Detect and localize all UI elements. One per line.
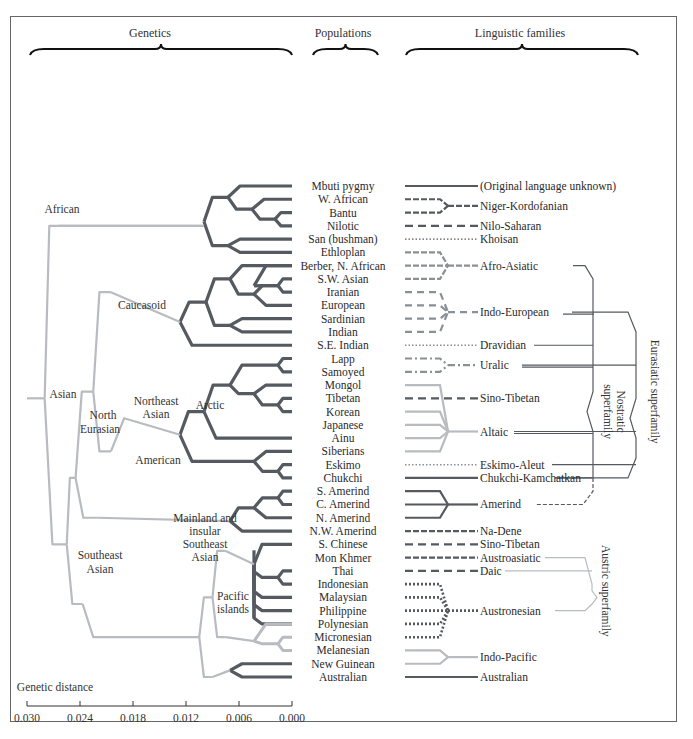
family-label-15: Austroasiatic xyxy=(480,552,541,564)
population-label: Samoyed xyxy=(322,366,365,379)
family-label-5: Indo-European xyxy=(480,306,549,319)
axis-tick-label: 0.030 xyxy=(14,712,40,724)
axis-tick-label: 0.018 xyxy=(120,712,146,724)
axis-tick-label: 0.000 xyxy=(279,712,305,724)
eurasiatic-label: Eurasiatic superfamily xyxy=(648,340,661,444)
aus-stem xyxy=(213,670,231,677)
tree-branch xyxy=(204,222,228,246)
tree-branch xyxy=(278,491,292,498)
tree-branch xyxy=(228,239,292,246)
population-label: Mongol xyxy=(325,379,361,392)
population-label: Micronesian xyxy=(314,631,372,643)
population-label: S. Chinese xyxy=(318,538,367,550)
tree-branch xyxy=(228,246,292,253)
language-link xyxy=(405,365,448,372)
tree-branch xyxy=(278,637,292,644)
nostratic-label: superfamily xyxy=(601,384,614,439)
family-label-19: Australian xyxy=(480,671,528,683)
family-label-17: Austronesian xyxy=(480,605,541,617)
population-label: Bantu xyxy=(329,207,357,219)
asian-split xyxy=(67,478,76,544)
clade-label-pacific: Pacific xyxy=(217,590,249,602)
header-linguistic: Linguistic families xyxy=(475,26,566,40)
population-label: S.E. Indian xyxy=(317,339,369,351)
tree-branch xyxy=(228,197,252,209)
tree-branch xyxy=(278,398,292,405)
language-link xyxy=(405,292,448,312)
tree-branch xyxy=(230,385,254,394)
text-layer: 0.0300.0240.0180.0120.0060.000GeneticsPo… xyxy=(14,26,661,724)
brace-genetics xyxy=(30,44,292,55)
backbone xyxy=(45,398,67,544)
tree-branch xyxy=(204,412,292,439)
tree-branch xyxy=(278,279,292,286)
family-label-1: Niger-Kordofanian xyxy=(480,200,568,213)
population-label: Chukchi xyxy=(324,472,363,484)
tree-branch xyxy=(275,219,292,226)
language-link xyxy=(405,359,448,366)
family-label-16: Daic xyxy=(480,565,502,577)
clade-label-mainland: Mainland and xyxy=(173,512,237,524)
population-label: Mon Khmer xyxy=(315,552,372,564)
clade-label-caucasoid: Caucasoid xyxy=(118,299,166,311)
tree-branch xyxy=(278,286,292,293)
language-link xyxy=(405,425,448,432)
population-label: N. Amerind xyxy=(316,512,371,524)
tree-branch xyxy=(278,471,292,478)
clade-label-northeast-asian: Asian xyxy=(143,408,170,420)
family-label-6: Dravidian xyxy=(480,339,526,351)
language-link xyxy=(405,305,448,312)
se-asian-stem xyxy=(83,604,200,637)
header-populations: Populations xyxy=(315,26,372,40)
family-label-10: Eskimo-Aleut xyxy=(480,459,545,471)
language-link xyxy=(405,266,448,279)
language-link xyxy=(405,491,448,504)
tree-branch xyxy=(278,405,292,412)
language-link xyxy=(405,312,448,319)
pacific-stem xyxy=(226,637,254,641)
tree-branch xyxy=(278,465,292,472)
axis-tick-label: 0.012 xyxy=(173,712,199,724)
tree-branch xyxy=(230,664,292,671)
tree-branch xyxy=(230,365,278,385)
language-link xyxy=(405,206,448,213)
population-label: Indian xyxy=(328,326,358,338)
tree-branch xyxy=(254,451,292,461)
header-genetics: Genetics xyxy=(129,26,171,40)
indo-european-link xyxy=(563,312,594,314)
family-label-8: Sino-Tibetan xyxy=(480,392,540,404)
linguistic-links xyxy=(405,186,478,677)
genetic-tree xyxy=(27,186,292,706)
tree-branch xyxy=(254,508,292,518)
tree-branch xyxy=(230,325,292,332)
tree-branch xyxy=(254,564,278,577)
population-label: Berber, N. African xyxy=(300,260,385,273)
mainland-stem xyxy=(226,551,254,564)
language-link xyxy=(405,412,448,432)
axis-tick-label: 0.006 xyxy=(226,712,252,724)
se-split xyxy=(199,597,212,637)
tree-branch xyxy=(278,359,292,366)
se-split xyxy=(199,637,212,677)
ne-asian-stem xyxy=(111,418,180,451)
clade-label-north-eurasian: North xyxy=(90,409,117,421)
clade-label-southeast-asian: Asian xyxy=(87,563,114,575)
population-label: Indonesian xyxy=(318,578,369,590)
clade-label-asian: Asian xyxy=(50,388,77,400)
austric-label: Austric superfamily xyxy=(599,545,612,637)
family-label-12: Amerind xyxy=(480,498,521,510)
caucasoid-split xyxy=(93,292,111,392)
language-link xyxy=(405,657,448,664)
population-label: N.W. Amerind xyxy=(310,525,377,537)
tree-branch xyxy=(254,544,292,564)
clade-label-mainland: Asian xyxy=(192,551,219,563)
nostratic-label: Nostratic xyxy=(615,391,627,433)
population-label: Thai xyxy=(332,565,353,577)
backbone xyxy=(45,226,58,399)
tree-branch xyxy=(228,186,292,197)
population-label: Polynesian xyxy=(318,618,369,631)
clade-label-arctic: Arctic xyxy=(196,399,225,411)
family-label-18: Indo-Pacific xyxy=(480,651,537,663)
tree-branch xyxy=(254,498,278,508)
tree-branch xyxy=(180,322,292,345)
